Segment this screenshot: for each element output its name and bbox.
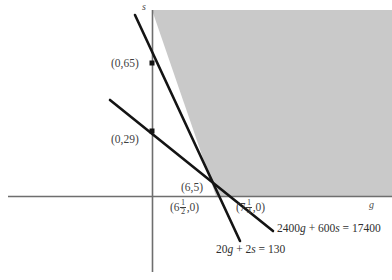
plus-operator: + <box>236 243 243 255</box>
whole-number: 6 <box>174 201 180 213</box>
coefficient-g: 2400 <box>277 222 300 234</box>
right-hand-side: 130 <box>268 243 285 255</box>
fraction-denominator: 2 <box>180 208 186 216</box>
variable-s: s <box>335 222 339 234</box>
variable-s: s <box>251 243 255 255</box>
equals-operator: = <box>259 243 266 255</box>
shaded-feasible-region <box>152 10 392 196</box>
plot-canvas <box>0 0 392 280</box>
x-axis-label: g <box>369 200 374 210</box>
equation-label-time: 20g + 2s = 130 <box>216 244 285 256</box>
label-y-intercept-29: (0,29) <box>111 134 139 146</box>
variable-g: g <box>300 222 306 234</box>
point-marker-0-29 <box>150 129 155 134</box>
label-x-intercept-six-half: (612,0) <box>170 199 199 217</box>
whole-number: 7 <box>240 201 246 213</box>
y-axis-label: s <box>142 2 146 12</box>
fraction-one-half: 12 <box>180 199 186 217</box>
label-intersection-point: (6,5) <box>181 182 203 194</box>
right-hand-side: 17400 <box>352 222 381 234</box>
variable-g: g <box>228 243 234 255</box>
paren-close-zero: ,0) <box>187 201 199 213</box>
paren-close-zero: ,0) <box>253 201 265 213</box>
coefficient-g: 20 <box>216 243 228 255</box>
feasible-region-figure: s g (0,65) (0,29) (6,5) (612,0) (714,0) … <box>0 0 392 280</box>
label-x-intercept-seven-quarter: (714,0) <box>236 199 265 217</box>
fraction-denominator: 4 <box>246 208 252 216</box>
fraction-one-quarter: 14 <box>246 199 252 217</box>
label-y-intercept-65: (0,65) <box>111 58 139 70</box>
plus-operator: + <box>309 222 316 234</box>
equation-label-cost: 2400g + 600s = 17400 <box>277 223 381 235</box>
coefficient-s: 600 <box>318 222 335 234</box>
equals-operator: = <box>343 222 350 234</box>
point-marker-0-65 <box>150 61 155 66</box>
